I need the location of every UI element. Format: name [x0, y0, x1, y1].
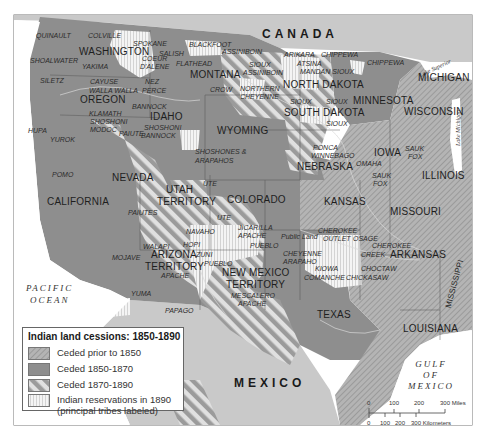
tribe-hupa: HUPA: [28, 127, 47, 134]
tribe-mescalero: MESCALERO: [231, 292, 275, 299]
state-new-mexico: NEW MEXICO: [222, 268, 290, 278]
tribe-shoshoni-2: SHOSHONI: [144, 124, 181, 131]
tribe-jicarilla: JICARILLA: [238, 224, 273, 231]
tribe-hopi: HOPI: [183, 241, 200, 248]
tribe-siletz: SILETZ: [40, 77, 64, 84]
tribe-navaho: NAVAHO: [186, 228, 215, 235]
tribe-arikara: ARIKARA: [284, 51, 315, 58]
tribe-ute-1: UTE: [203, 180, 217, 187]
tribe-ute-2: UTE: [217, 214, 231, 221]
scale-km-100: 100: [380, 420, 390, 426]
state-oregon: OREGON: [80, 95, 126, 105]
tribe-sioux-3: SIOUX: [326, 98, 348, 105]
tribe-mandan-sioux: MANDAN SIOUX: [300, 68, 354, 75]
tribe-sioux-4: SIOUX: [326, 120, 348, 127]
tribe-atsina: ATSINA: [297, 60, 322, 67]
tribe-perce: PERCE: [142, 87, 166, 94]
state-colorado: COLORADO: [227, 195, 286, 205]
state-minnesota: MINNESOTA: [353, 96, 414, 106]
tribe-creek: CREEK: [361, 251, 385, 258]
tribe-winnebago: WINNEBAGO: [311, 152, 355, 159]
tribe-nez: NEZ: [145, 78, 159, 85]
legend-item-ceded-1870-1890: Ceded 1870-1890: [28, 379, 133, 392]
label-pacific-ocean: PACIFIC OCEAN: [26, 284, 73, 305]
tribe-sauk-2: SAUK: [372, 172, 391, 179]
pacific-line2: OCEAN: [26, 296, 73, 305]
gulf-line1: GULF: [408, 360, 454, 369]
label-mexico: MEXICO: [234, 377, 305, 389]
scale-miles-300: 300 Miles: [440, 400, 466, 406]
gulf-line2: OF: [408, 371, 454, 380]
scale-km-0: 0: [367, 420, 370, 426]
tribe-shoalwater: SHOALWATER: [30, 57, 78, 64]
solid-dark-swatch-icon: [28, 363, 50, 376]
tribe-papago: PAPAGO: [165, 307, 194, 314]
tribe-zuni: ZUNI: [196, 251, 212, 258]
scale-km-300: 300 Kilometers: [411, 420, 451, 426]
tribe-chippewa-2: CHIPPEWA: [367, 59, 404, 66]
legend-label-sub: (principal tribes labeled): [57, 405, 171, 416]
scale-bar: 0 100 200 300 Miles 0 100 200 300 Kilome…: [365, 395, 475, 435]
state-new-mexico-territory: TERRITORY: [226, 280, 285, 290]
tribe-blackfoot: BLACKFOOT: [189, 41, 231, 48]
tribe-chickasaw: CHICKASAW: [346, 274, 388, 281]
tribe-assiniboin-2: ASSINIBOIN: [243, 69, 283, 76]
tribe-northern: NORTHERN: [240, 85, 280, 92]
tribe-sioux-1: SIOUX: [249, 61, 271, 68]
tribe-comanche: COMANCHE: [304, 274, 345, 281]
tribe-choctaw: CHOCTAW: [361, 265, 397, 272]
tribe-pueblo-2: PUEBLO: [204, 260, 232, 267]
state-california: CALIFORNIA: [47, 197, 109, 207]
state-michigan: MICHIGAN: [418, 73, 470, 83]
tribe-paiutes: PAIUTES: [128, 209, 157, 216]
tribe-cayuse: CAYUSE: [90, 78, 118, 85]
state-idaho: IDAHO: [150, 112, 183, 122]
legend-title: Indian land cessions: 1850-1890: [28, 331, 180, 342]
tribe-kiowa: KIOWA: [315, 265, 338, 272]
tribe-colville: COLVILLE: [88, 32, 121, 39]
tribe-crow: CROW: [210, 86, 232, 93]
tribe-modoc: MODOC: [90, 126, 117, 133]
state-wyoming: WYOMING: [217, 126, 268, 136]
tribe-bannock-1: BANNOCK: [132, 103, 167, 110]
state-washington: WASHINGTON: [79, 47, 149, 57]
legend-label: Ceded 1870-1890: [57, 379, 133, 390]
tribe-shoshones: SHOSHONES &: [195, 148, 246, 155]
state-iowa: IOWA: [374, 148, 401, 158]
tribe-cheyenne-2: CHEYENNE: [283, 250, 322, 257]
state-louisiana: LOUISIANA: [403, 324, 458, 334]
state-illinois: ILLINOIS: [422, 171, 465, 181]
state-missouri: MISSOURI: [390, 207, 441, 217]
legend-item-ceded-1850-1870: Ceded 1850-1870: [28, 363, 133, 376]
state-south-dakota: SOUTH DAKOTA: [284, 108, 365, 118]
tribe-chippewa-1: CHIPPEWA: [321, 51, 358, 58]
scale-miles-200: 200: [414, 400, 424, 406]
tribe-yakima: YAKIMA: [82, 63, 108, 70]
tribe-assiniboin-1: ASSINIBOIN: [222, 48, 262, 55]
tribe-arapahos: ARAPAHOS: [195, 157, 233, 164]
tribe-sioux-2: SIOUX: [290, 98, 312, 105]
state-arizona-territory: TERRITORY: [145, 262, 204, 272]
state-utah-territory: TERRITORY: [157, 197, 216, 207]
tribe-yurok: YUROK: [50, 136, 75, 143]
tribe-fox-1: FOX: [408, 153, 422, 160]
tribe-ponca: PONCA: [313, 144, 338, 151]
tribe-fox-2: FOX: [373, 180, 387, 187]
legend-label: Indian reservations in 1890: [57, 394, 171, 405]
tribe-public-land: Public Land: [281, 233, 318, 240]
tribe-pomo: POMO: [52, 171, 73, 178]
state-montana: MONTANA: [190, 70, 241, 80]
fine-diagonal-swatch-icon: [28, 347, 50, 360]
tribe-omaha: OMAHA: [356, 160, 382, 167]
tribe-salish: SALISH: [159, 50, 184, 57]
state-arizona: ARIZONA: [151, 250, 197, 260]
tribe-apache-1: APACHE: [238, 232, 266, 239]
state-arkansas: ARKANSAS: [390, 250, 446, 260]
tribe-cherokee-outlet-1: CHEROKEE: [318, 227, 357, 234]
tribe-quinault: QUINAULT: [36, 32, 71, 39]
label-gulf-of-mexico: GULF OF MEXICO: [408, 360, 454, 391]
vertical-lines-swatch-icon: [28, 394, 50, 407]
legend-label: Ceded prior to 1850: [57, 347, 141, 358]
tribe-pueblo-1: PUEBLO: [250, 242, 278, 249]
tribe-shoshoni-1: SHOSHONI: [90, 118, 127, 125]
